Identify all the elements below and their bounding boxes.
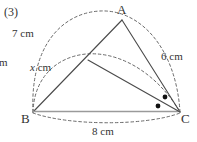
label-side-bd: x cm xyxy=(30,62,51,73)
label-side-ac: 6 cm xyxy=(161,51,183,62)
angle-mark-dot-upper xyxy=(163,95,168,100)
clipped-text-fragment: m xyxy=(0,57,8,68)
item-number: (3) xyxy=(4,6,18,18)
vertex-label-b: B xyxy=(21,112,30,125)
lower-dashed-arc xyxy=(33,113,180,123)
label-side-bd-unit: cm xyxy=(35,61,51,73)
segment-cd-bisector xyxy=(88,60,180,112)
outer-dashed-arc xyxy=(33,11,180,112)
inner-dashed-arc xyxy=(33,54,180,112)
label-side-ab: 7 cm xyxy=(12,28,34,39)
label-side-bc: 8 cm xyxy=(92,126,114,137)
figure-page: (3) m 7 cm x cm 6 cm 8 cm A B C xyxy=(0,0,197,142)
angle-mark-dot-lower xyxy=(156,104,161,109)
vertex-label-c: C xyxy=(181,112,190,125)
vertex-label-a: A xyxy=(117,3,126,16)
